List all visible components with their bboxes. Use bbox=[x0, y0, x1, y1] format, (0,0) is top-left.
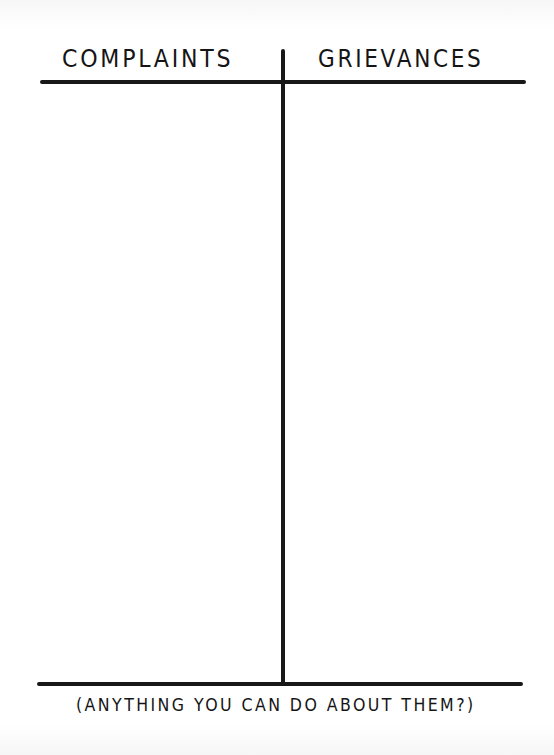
t-chart-page: COMPLAINTS GRIEVANCES (ANYTHING YOU CAN … bbox=[0, 0, 554, 755]
column-heading-complaints: COMPLAINTS bbox=[62, 45, 233, 73]
footer-divider-line bbox=[37, 682, 523, 686]
complaints-column-area bbox=[40, 86, 280, 680]
footer-caption: (ANYTHING YOU CAN DO ABOUT THEM?) bbox=[76, 695, 476, 715]
grievances-column-area bbox=[286, 86, 524, 680]
column-heading-grievances: GRIEVANCES bbox=[318, 45, 484, 73]
column-divider-line bbox=[281, 49, 285, 686]
